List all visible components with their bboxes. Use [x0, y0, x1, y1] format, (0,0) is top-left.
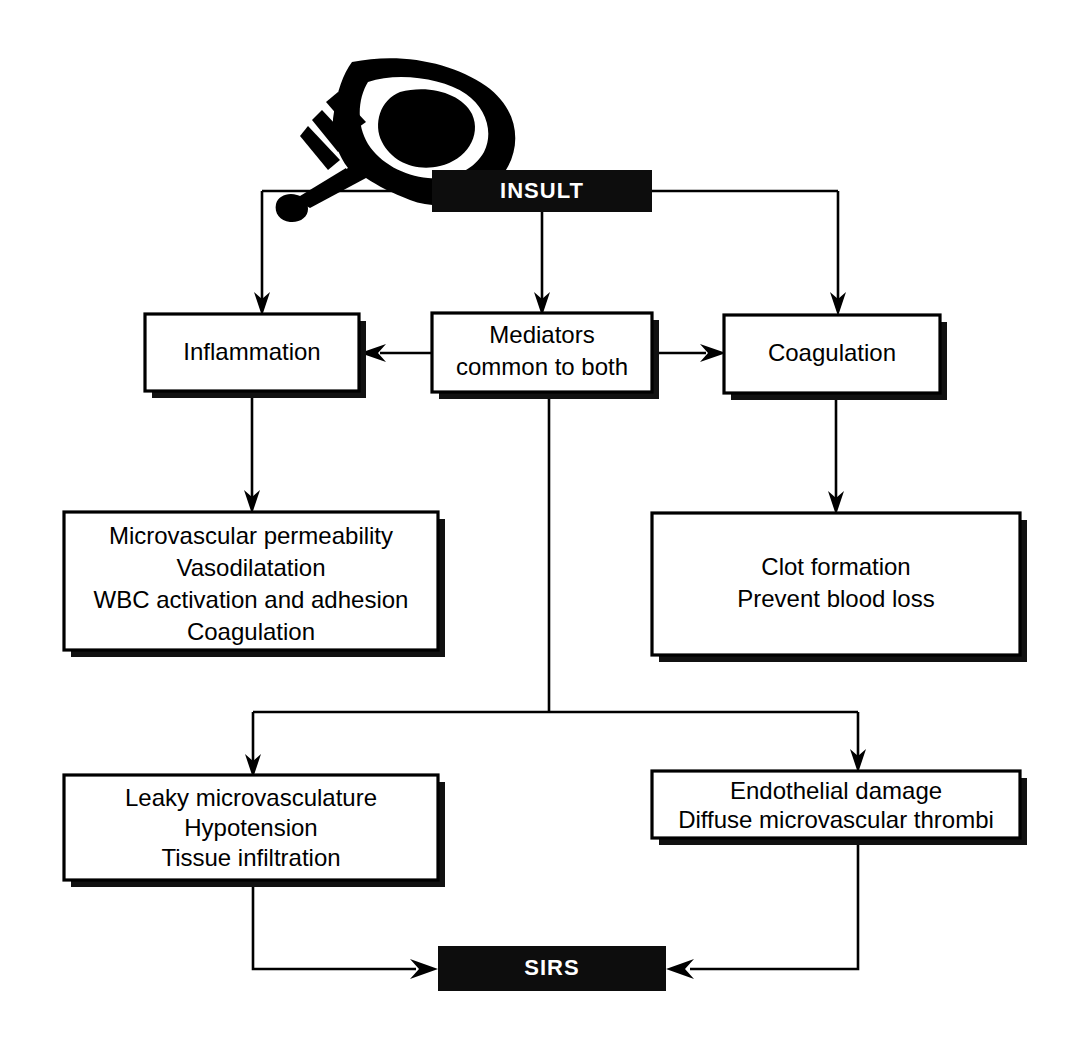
node-coagulation-effects-line2: Prevent blood loss [737, 585, 934, 612]
edge-leaky-sirs [253, 880, 416, 969]
node-inflammation-effects-line1: Microvascular permeability [109, 522, 393, 549]
node-leaky-line1: Leaky microvasculature [125, 784, 377, 811]
node-inflammation-effects-line3: WBC activation and adhesion [94, 586, 409, 613]
node-endothelial-line1: Endothelial damage [730, 777, 942, 804]
node-inflammation-effects[interactable]: Microvascular permeability Vasodilatatio… [64, 512, 445, 657]
node-inflammation[interactable]: Inflammation [145, 314, 366, 398]
node-sirs[interactable]: SIRS [438, 946, 666, 991]
node-coagulation-effects[interactable]: Clot formation Prevent blood loss [652, 513, 1027, 662]
node-insult-label: INSULT [500, 178, 584, 203]
node-inflammation-effects-line4: Coagulation [187, 618, 315, 645]
node-insult[interactable]: INSULT [432, 170, 652, 212]
node-mediators-line1: Mediators [489, 321, 594, 348]
node-leaky-line2: Hypotension [184, 814, 317, 841]
node-leaky[interactable]: Leaky microvasculature Hypotension Tissu… [64, 775, 445, 887]
flowchart-canvas: INSULT Inflammation Mediators common to … [0, 0, 1075, 1037]
node-endothelial-line2: Diffuse microvascular thrombi [678, 806, 994, 833]
node-coagulation-effects-fill [652, 513, 1020, 655]
node-inflammation-label: Inflammation [183, 338, 320, 365]
node-mediators-line2: common to both [456, 353, 628, 380]
arrowhead-endothelial-sirs [666, 959, 694, 979]
node-sirs-label: SIRS [524, 955, 579, 980]
node-inflammation-effects-line2: Vasodilatation [177, 554, 326, 581]
node-coagulation[interactable]: Coagulation [724, 315, 947, 400]
node-coagulation-label: Coagulation [768, 339, 896, 366]
node-leaky-line3: Tissue infiltration [161, 844, 340, 871]
node-endothelial[interactable]: Endothelial damage Diffuse microvascular… [652, 771, 1027, 845]
node-mediators[interactable]: Mediators common to both [432, 313, 659, 399]
edge-endothelial-sirs [690, 838, 858, 969]
node-coagulation-effects-line1: Clot formation [761, 553, 910, 580]
